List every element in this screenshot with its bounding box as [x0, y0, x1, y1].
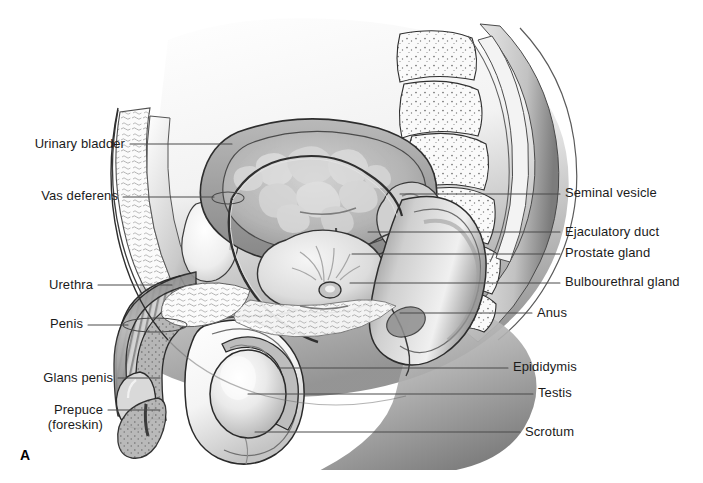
label-text-testis: Testis	[538, 385, 572, 400]
label-text-glans-penis: Glans penis	[43, 370, 113, 385]
label-text-epididymis: Epididymis	[513, 359, 577, 374]
label-bulbourethral-gland: Bulbourethral gland	[565, 274, 680, 289]
label-text-urinary-bladder: Urinary bladder	[35, 136, 125, 151]
label-anus: Anus	[537, 305, 567, 320]
label-prostate-gland: Prostate gland	[565, 245, 650, 260]
label-text-bulbourethral-gland: Bulbourethral gland	[565, 274, 680, 289]
label-text-prepuce: Prepuce	[54, 402, 103, 417]
label-text-anus: Anus	[537, 305, 567, 320]
vertebra-2	[399, 81, 482, 138]
label-vas-deferens: Vas deferens	[41, 188, 118, 203]
label-text-ejaculatory-duct: Ejaculatory duct	[565, 224, 659, 239]
label-text-penis: Penis	[50, 316, 83, 331]
label-testis: Testis	[538, 385, 572, 400]
label-text-prepuce-line2: (foreskin)	[48, 417, 103, 432]
label-text-vas-deferens: Vas deferens	[41, 188, 118, 203]
scrotum-group	[185, 320, 304, 464]
label-glans-penis: Glans penis	[43, 370, 113, 385]
label-text-prostate-gland: Prostate gland	[565, 245, 650, 260]
label-urethra: Urethra	[49, 277, 93, 292]
label-penis: Penis	[50, 316, 83, 331]
label-seminal-vesicle: Seminal vesicle	[565, 185, 657, 200]
label-text-urethra: Urethra	[49, 277, 93, 292]
label-text-scrotum: Scrotum	[525, 424, 574, 439]
bulbourethral-gland	[319, 282, 341, 298]
anatomy-figure: Urinary bladderVas deferensUrethraPenisG…	[0, 0, 703, 483]
label-text-seminal-vesicle: Seminal vesicle	[565, 185, 657, 200]
label-epididymis: Epididymis	[513, 359, 577, 374]
panel-letter: A	[20, 447, 30, 463]
testis-highlight	[220, 356, 256, 400]
anatomy-illustration	[0, 0, 703, 483]
label-urinary-bladder: Urinary bladder	[35, 136, 125, 151]
vertebra-1	[397, 31, 477, 82]
label-scrotum: Scrotum	[525, 424, 574, 439]
label-prepuce: Prepuce(foreskin)	[48, 402, 103, 432]
torso-body	[111, 18, 577, 478]
label-ejaculatory-duct: Ejaculatory duct	[565, 224, 659, 239]
